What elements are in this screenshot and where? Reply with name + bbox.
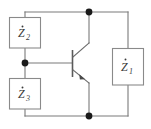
z3-symbol: Z — [18, 87, 25, 101]
z3-box-outline — [10, 79, 41, 110]
z3-subscript: 3 — [25, 94, 30, 103]
z2-symbol: Z — [18, 26, 25, 40]
component-z3: Z 3 — [10, 79, 41, 110]
transistor-collector-lead — [73, 43, 89, 57]
z2-subscript: 2 — [26, 33, 30, 42]
z2-box-outline — [10, 18, 41, 49]
node-dot-bottom-junction — [86, 113, 93, 120]
transistor-emitter-arrow-icon — [79, 74, 85, 79]
node-dot-base-junction — [22, 60, 29, 67]
z1-box-outline — [113, 49, 144, 86]
component-z2: Z 2 — [10, 18, 41, 49]
circuit-canvas: Z 2 Z 3 Z 1 — [0, 0, 151, 129]
node-dot-top-junction — [86, 9, 93, 16]
component-z1: Z 1 — [113, 49, 144, 86]
z1-symbol: Z — [121, 60, 128, 74]
circuit-diagram: Z 2 Z 3 Z 1 — [0, 0, 151, 129]
z1-subscript: 1 — [129, 67, 133, 76]
npn-transistor-symbol — [73, 43, 90, 83]
